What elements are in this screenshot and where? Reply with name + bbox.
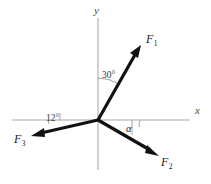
vector-f1-arrowhead: [130, 45, 141, 58]
angle-30-label: 30°: [102, 71, 115, 81]
y-axis-label: y: [94, 5, 99, 16]
vector-f2-shaft: [98, 120, 150, 150]
vector-f2-label-subscript: 2: [169, 162, 173, 171]
vector-f3-label: F3: [14, 133, 25, 145]
vector-f1-label-subscript: 1: [154, 39, 158, 48]
vector-f3-label-base: F: [14, 132, 21, 146]
vector-f3-arrowhead: [31, 128, 45, 137]
vector-f1-label-base: F: [146, 32, 153, 46]
force-diagram: y x F1 F2 F3 30° 12° α: [0, 0, 211, 184]
angle-alpha-label: α: [126, 124, 132, 135]
vector-f1-label: F1: [146, 33, 157, 45]
diagram-canvas: [0, 0, 211, 184]
vector-f1-shaft: [98, 53, 136, 120]
angle-12-label: 12°: [46, 114, 59, 124]
vector-f2-arrowhead: [145, 145, 159, 156]
x-axis-label: x: [195, 105, 200, 116]
angle-alpha-arc: [139, 120, 140, 127]
vector-f2-label: F2: [161, 156, 172, 168]
vector-f3-label-subscript: 3: [22, 139, 26, 148]
vector-f2-label-base: F: [161, 155, 168, 169]
